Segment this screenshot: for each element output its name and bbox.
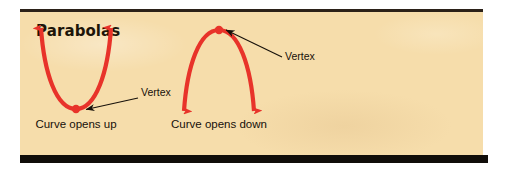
illustration-panel: Parabolas Vertex Curve opens up	[20, 9, 483, 158]
parabola-curve-down	[184, 30, 254, 111]
vertex-label-down: Vertex	[285, 50, 316, 62]
caption-opens-down: Curve opens down	[171, 118, 267, 130]
figure-root: Parabolas Vertex Curve opens up	[0, 0, 505, 178]
parabola-curve-up	[41, 28, 111, 109]
vertex-dot-up	[72, 105, 80, 113]
parabolas-diagram: Vertex Curve opens up Vertex Curve opens…	[20, 12, 483, 158]
parabola-opens-down-group: Vertex Curve opens down	[171, 26, 315, 130]
vertex-pointer-down	[226, 30, 282, 57]
caption-opens-up: Curve opens up	[35, 118, 116, 130]
bottom-rule	[20, 155, 488, 163]
parabola-opens-up-group: Vertex Curve opens up	[35, 28, 171, 130]
vertex-dot-down	[215, 26, 223, 34]
vertex-label-up: Vertex	[141, 86, 172, 98]
